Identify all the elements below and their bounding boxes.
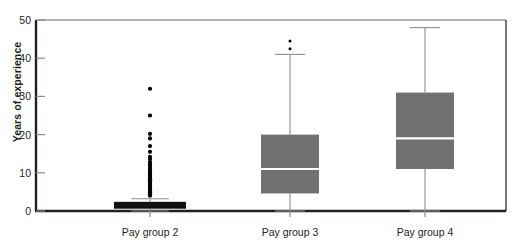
outlier-point	[148, 155, 152, 159]
outlier-point	[148, 113, 152, 117]
boxplot-pay-group-3	[261, 40, 319, 211]
outlier-point	[289, 40, 292, 43]
box-iqr	[261, 135, 319, 194]
outlier-point	[148, 144, 152, 148]
boxplot-pay-group-4	[396, 28, 454, 211]
outlier-point	[148, 150, 152, 154]
boxplot-pay-group-2	[114, 87, 186, 211]
plot-area	[0, 0, 519, 251]
outlier-point	[148, 87, 152, 91]
outlier-point	[148, 136, 152, 140]
box-plot-figure: Years of experience 50 40 30 20 10 0 Pay…	[0, 0, 519, 251]
outlier-point	[148, 132, 152, 136]
outlier-point	[289, 47, 292, 50]
box-iqr	[396, 93, 454, 169]
